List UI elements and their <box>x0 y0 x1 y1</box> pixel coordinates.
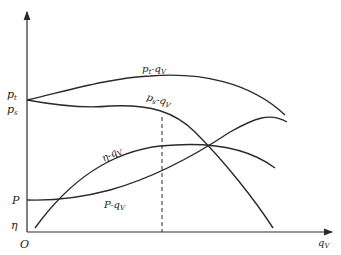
origin-label: O <box>20 238 29 251</box>
ps-qv-curve <box>27 100 273 228</box>
p-qv-label: P-qV <box>103 199 126 212</box>
y-label-P: P <box>11 194 20 207</box>
y-label-pt: pt <box>7 88 17 102</box>
x-axis-label: qV <box>318 237 330 250</box>
ps-qv-label: ps-qV <box>145 91 173 110</box>
eta-qv-curve <box>35 145 275 228</box>
pt-qv-label: pt-qV <box>142 63 167 76</box>
p-qv-curve <box>27 117 287 200</box>
y-label-ps: ps <box>7 103 18 117</box>
eta-qv-label: η-qV <box>100 144 125 166</box>
y-label-eta: η <box>11 219 18 232</box>
performance-diagram: pt ps P η O qV pt-qV ps-qV η-qV P-qV <box>0 0 341 255</box>
